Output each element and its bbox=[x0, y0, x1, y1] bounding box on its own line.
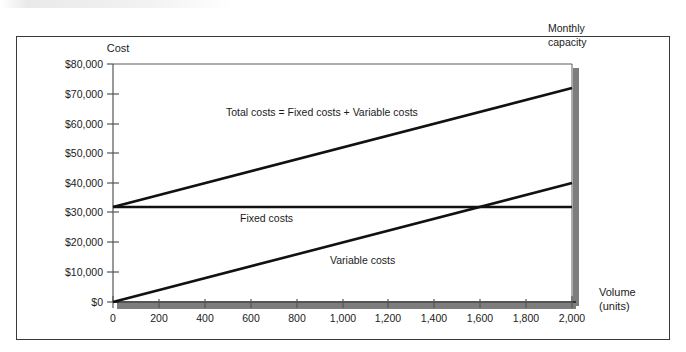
x-tick-label-2000: 2,000 bbox=[559, 312, 585, 324]
x-tick-label-1000: 1,000 bbox=[330, 312, 356, 324]
x-axis-title-units: (units) bbox=[599, 300, 630, 312]
y-axis-title: Cost bbox=[107, 42, 130, 54]
y-tick-label-30000: $30,000 bbox=[65, 206, 103, 218]
series-label-fixed-costs: Fixed costs bbox=[240, 212, 293, 224]
x-tick-label-400: 400 bbox=[196, 312, 214, 324]
y-tick-label-70000: $70,000 bbox=[65, 88, 103, 100]
x-tick-label-1200: 1,200 bbox=[375, 312, 401, 324]
series-line-variable-costs bbox=[113, 183, 572, 302]
y-tick-label-40000: $40,000 bbox=[65, 177, 103, 189]
monthly-capacity-label-line2: capacity bbox=[548, 36, 587, 48]
x-tick-label-1800: 1,800 bbox=[513, 312, 539, 324]
figure-page: $80,000 $70,000 $60,000 $50,000 $40,000 … bbox=[0, 0, 686, 352]
y-tick-label-10000: $10,000 bbox=[65, 266, 103, 278]
x-tick-label-1600: 1,600 bbox=[467, 312, 493, 324]
x-tick-label-600: 600 bbox=[242, 312, 260, 324]
y-tick-label-60000: $60,000 bbox=[65, 118, 103, 130]
y-tick-label-20000: $20,000 bbox=[65, 236, 103, 248]
x-tick-label-200: 200 bbox=[150, 312, 168, 324]
y-tick-label-0: $0 bbox=[91, 296, 103, 308]
x-axis-shadow-bar bbox=[117, 303, 576, 309]
monthly-capacity-label-line1: Monthly bbox=[548, 22, 586, 34]
y-tick-label-80000: $80,000 bbox=[65, 58, 103, 70]
cost-behavior-chart: $80,000 $70,000 $60,000 $50,000 $40,000 … bbox=[0, 0, 686, 352]
series-label-variable-costs: Variable costs bbox=[330, 254, 395, 266]
monthly-capacity-bar bbox=[573, 68, 579, 306]
y-tick-label-50000: $50,000 bbox=[65, 147, 103, 159]
x-tick-label-1400: 1,400 bbox=[421, 312, 447, 324]
x-tick-label-0: 0 bbox=[110, 312, 116, 324]
series-label-total-costs: Total costs = Fixed costs + Variable cos… bbox=[226, 106, 418, 118]
x-tick-label-800: 800 bbox=[288, 312, 306, 324]
x-axis-title: Volume bbox=[599, 286, 636, 298]
